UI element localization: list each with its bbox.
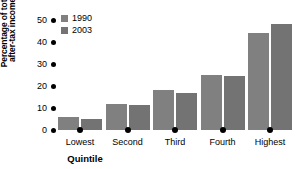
y-axis-tick-30: 30 xyxy=(22,59,56,69)
bar-2003-lowest xyxy=(81,119,102,130)
y-axis-tick-20: 20 xyxy=(22,81,56,91)
x-axis-tick-dot-icon xyxy=(220,127,226,133)
x-axis-tick-dot-icon xyxy=(77,127,83,133)
bar-1990-second xyxy=(106,104,127,130)
y-axis-title: Percentage of total after-tax income xyxy=(0,0,16,85)
bar-chart: Percentage of total after-tax income 50 … xyxy=(0,0,298,169)
y-axis-tick-label-20: 20 xyxy=(37,81,47,91)
bar-2003-third xyxy=(176,93,197,130)
y-axis-tick-40: 40 xyxy=(22,37,56,47)
x-axis-tick-dot-icon xyxy=(267,127,273,133)
x-axis-slot: Fourth xyxy=(201,130,245,147)
x-axis-tick-dot-icon xyxy=(125,127,131,133)
y-axis-tick-label-10: 10 xyxy=(37,103,47,113)
bar-group xyxy=(153,20,197,130)
x-axis-slot: Third xyxy=(153,130,197,147)
x-axis-label-second: Second xyxy=(106,137,150,147)
bar-1990-fourth xyxy=(201,75,222,130)
y-axis-title-line-2: after-tax income xyxy=(8,0,16,85)
x-axis-label-highest: Highest xyxy=(248,137,292,147)
x-axis: Quintile LowestSecondThirdFourthHighest xyxy=(56,130,294,169)
x-axis-title: Quintile xyxy=(56,154,114,164)
y-axis-tick-label-0: 0 xyxy=(42,125,47,135)
bar-2003-fourth xyxy=(224,76,245,130)
y-axis-tick-10: 10 xyxy=(22,103,56,113)
y-axis-tick-label-30: 30 xyxy=(37,59,47,69)
bar-2003-highest xyxy=(271,24,292,130)
x-axis-label-lowest: Lowest xyxy=(58,137,102,147)
y-axis-tick-label-40: 40 xyxy=(37,37,47,47)
bar-group xyxy=(201,20,245,130)
x-axis-slot: Highest xyxy=(248,130,292,147)
bar-2003-second xyxy=(129,105,150,130)
bar-group xyxy=(106,20,150,130)
bar-1990-lowest xyxy=(58,117,79,130)
bar-group xyxy=(58,20,102,130)
bar-1990-highest xyxy=(248,33,269,130)
y-axis-tick-50: 50 xyxy=(22,15,56,25)
x-axis-slot: Lowest xyxy=(58,130,102,147)
y-axis-tick-label-50: 50 xyxy=(37,15,47,25)
plot-area xyxy=(56,20,294,130)
x-axis-label-third: Third xyxy=(153,137,197,147)
y-axis-tick-0: 0 xyxy=(22,125,56,135)
x-axis-slot: Second xyxy=(106,130,150,147)
x-axis-label-fourth: Fourth xyxy=(201,137,245,147)
bar-1990-third xyxy=(153,90,174,130)
x-axis-tick-dot-icon xyxy=(172,127,178,133)
bar-group xyxy=(248,20,292,130)
